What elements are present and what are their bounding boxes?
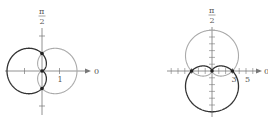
intersection-point: [210, 69, 214, 73]
tick-label-5: 5: [245, 75, 250, 84]
right-polar-graph: π2035: [167, 6, 268, 117]
intersection-point: [40, 69, 44, 73]
tick-label-3: 3: [231, 75, 236, 84]
arrow-icon: [85, 69, 91, 74]
polar-graphs: π201 π2035: [0, 0, 268, 124]
left-polar-graph: π201: [5, 7, 99, 115]
top-label-2: 2: [210, 16, 215, 25]
intersection-point: [190, 69, 194, 73]
intersection-point: [231, 69, 235, 73]
top-label-2: 2: [40, 17, 45, 26]
tick-label-1: 1: [58, 75, 63, 84]
axis-label-0: 0: [264, 67, 268, 76]
top-label-pi: π: [39, 7, 44, 16]
top-label-pi: π: [209, 6, 214, 15]
arrow-icon: [256, 69, 262, 74]
intersection-point: [40, 52, 44, 56]
axis-label-0: 0: [94, 67, 99, 76]
intersection-point: [40, 87, 44, 91]
